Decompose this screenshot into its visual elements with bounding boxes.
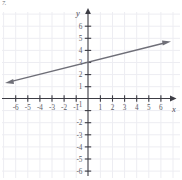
x-tick-label: 2 [111,104,115,112]
x-tick-label: 1 [99,104,103,112]
x-tick-label: -5 [25,104,31,112]
y-tick-label: -4 [76,144,82,152]
x-tick-label: -6 [13,104,19,112]
y-tick-label: -6 [76,168,82,176]
x-tick-label: 5 [147,104,151,112]
x-tick-label: -4 [37,104,43,112]
x-tick-label: 6 [159,104,163,112]
x-tick-label: 3 [123,104,127,112]
y-tick-label: 4 [79,47,83,55]
x-tick-label: 4 [135,104,139,112]
x-tick-label: -2 [61,104,67,112]
y-tick-label: -5 [76,156,82,164]
y-tick-label: -3 [76,132,82,140]
line-arrow-left [5,79,14,84]
y-tick-label: -1 [76,101,82,109]
y-tick-label: 6 [79,23,83,31]
y-tick-label: -2 [76,119,82,127]
grid-lines [2,12,180,178]
y-tick-label: 2 [79,71,83,79]
coordinate-plane-svg: -6 -5 -4 -3 -2 -1 1 2 3 4 5 6 6 5 4 3 2 … [0,0,182,180]
y-axis-label: y [75,8,80,18]
x-tick-label: -3 [49,104,55,112]
y-tick-labels: 6 5 4 3 2 1 -1 -2 -3 -4 -5 -6 [76,23,82,176]
graph-figure: 7. [0,0,182,180]
y-tick-label: 1 [79,83,83,91]
y-axis-arrow [85,8,91,14]
y-tick-label: 5 [79,35,83,43]
x-axis-label: x [171,104,176,114]
problem-number-label: 7. [2,0,6,7]
line-arrow-right [162,41,171,46]
